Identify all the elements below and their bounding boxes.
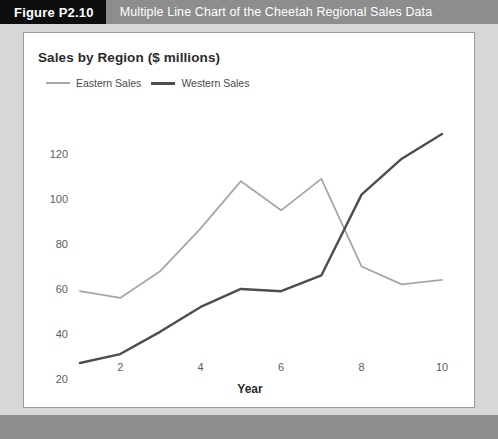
y-tick-label: 80: [32, 238, 68, 250]
y-tick-label: 100: [32, 193, 68, 205]
x-tick-label: 2: [100, 361, 140, 373]
figure-footer-bar: [0, 415, 498, 439]
series-line-western-sales: [80, 134, 442, 363]
x-tick-label: 8: [342, 361, 382, 373]
plot-area: 20406080100120 246810 Year: [24, 33, 476, 409]
y-tick-label: 40: [32, 328, 68, 340]
chart-panel: Sales by Region ($ millions) Eastern Sal…: [23, 32, 475, 408]
plot-svg: [24, 33, 476, 409]
series-line-eastern-sales: [80, 179, 442, 298]
x-tick-label: 6: [261, 361, 301, 373]
figure-number-badge: Figure P2.10: [0, 0, 106, 24]
x-axis-title: Year: [24, 382, 476, 396]
y-tick-label: 120: [32, 148, 68, 160]
y-tick-label: 60: [32, 283, 68, 295]
x-tick-label: 4: [181, 361, 221, 373]
x-tick-label: 10: [422, 361, 462, 373]
figure-header: Figure P2.10 Multiple Line Chart of the …: [0, 0, 498, 24]
figure-body: Sales by Region ($ millions) Eastern Sal…: [0, 24, 498, 415]
figure-caption: Multiple Line Chart of the Cheetah Regio…: [106, 0, 433, 24]
